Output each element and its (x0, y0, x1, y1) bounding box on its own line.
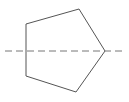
geometry-figure (0, 0, 129, 102)
figure-canvas (0, 0, 129, 102)
